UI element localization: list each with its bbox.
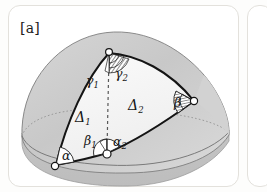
label-delta-1: Δ xyxy=(74,109,85,125)
label-beta-1: β xyxy=(83,133,91,148)
figure-panel-next xyxy=(247,5,267,187)
diagram-canvas: Δ1 Δ2 γ1 γ2 β1 α2 α β xyxy=(8,5,239,187)
label-beta: β xyxy=(173,95,181,110)
vertex-base-middle xyxy=(103,150,111,158)
figure-root: Δ1 Δ2 γ1 γ2 β1 α2 α β [a] xyxy=(0,0,267,192)
label-alpha-2-sub: 2 xyxy=(120,141,126,151)
label-delta-2-sub: 2 xyxy=(137,105,143,115)
vertex-right xyxy=(190,97,197,104)
label-gamma-2-sub: 2 xyxy=(121,73,127,83)
label-delta-2: Δ xyxy=(127,97,138,113)
label-beta-1-sub: 1 xyxy=(91,140,96,150)
vertex-base-left xyxy=(51,162,58,169)
vertex-apex xyxy=(106,49,113,56)
label-delta-1-sub: 1 xyxy=(85,117,90,127)
label-alpha: α xyxy=(62,148,71,163)
panel-label: [a] xyxy=(20,20,40,36)
label-gamma-1-sub: 1 xyxy=(93,80,98,90)
